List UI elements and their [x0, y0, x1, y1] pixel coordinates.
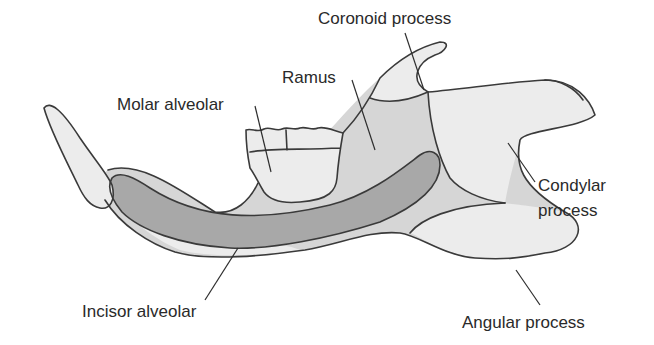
label-molar-alveolar: Molar alveolar [117, 95, 224, 114]
label-coronoid-process: Coronoid process [318, 9, 451, 28]
mandible-illustration [0, 0, 654, 345]
label-ramus: Ramus [282, 68, 336, 87]
label-condylar-process-line2: process [538, 201, 598, 220]
mandible-diagram: Coronoid process Ramus Molar alveolar Co… [0, 0, 654, 345]
label-incisor-alveolar: Incisor alveolar [82, 302, 196, 321]
label-condylar-process-line1: Condylar [538, 176, 606, 195]
label-angular-process: Angular process [462, 313, 585, 332]
incisor-tooth [44, 105, 113, 208]
leader-angular [516, 270, 540, 305]
